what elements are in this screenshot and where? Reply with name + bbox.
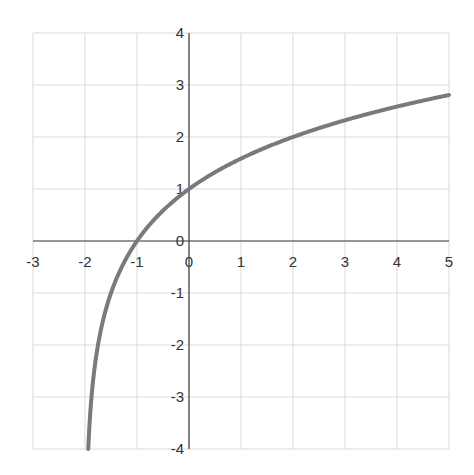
y-tick-label: 2 bbox=[176, 128, 184, 145]
function-curve bbox=[88, 95, 449, 449]
y-tick-label: -1 bbox=[171, 284, 184, 301]
y-tick-label: 0 bbox=[176, 232, 184, 249]
x-tick-label: 5 bbox=[445, 253, 453, 270]
y-tick-label: -4 bbox=[171, 440, 184, 457]
x-tick-label: -2 bbox=[78, 253, 91, 270]
x-tick-label: 4 bbox=[393, 253, 401, 270]
x-tick-label: -1 bbox=[130, 253, 143, 270]
x-tick-labels: -3-2-1012345 bbox=[26, 253, 453, 270]
y-tick-label: -2 bbox=[171, 336, 184, 353]
function-plot: -3-2-1012345 43210-1-2-3-4 bbox=[0, 0, 474, 475]
x-tick-label: 0 bbox=[185, 253, 193, 270]
x-tick-label: 1 bbox=[237, 253, 245, 270]
y-tick-label: -3 bbox=[171, 388, 184, 405]
x-tick-label: 3 bbox=[341, 253, 349, 270]
y-tick-label: 3 bbox=[176, 76, 184, 93]
y-tick-label: 4 bbox=[176, 24, 184, 41]
x-tick-label: 2 bbox=[289, 253, 297, 270]
x-tick-label: -3 bbox=[26, 253, 39, 270]
